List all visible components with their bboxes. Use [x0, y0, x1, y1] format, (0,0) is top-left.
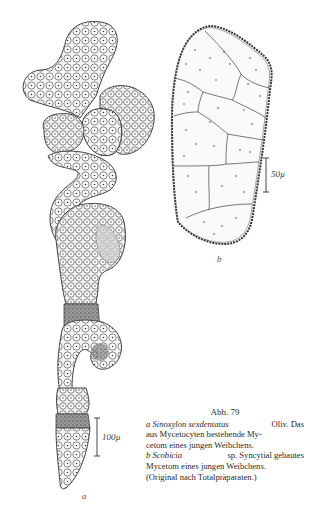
caption-line-4: b Scobicia sp. Syncytial gebautes: [146, 450, 304, 461]
caption-line-5: Mycetom eines jungen Weibchens.: [146, 461, 304, 472]
scale-label-50-micron: 50µ: [271, 169, 285, 179]
figure-caption: Abb. 79 a Sinoxylon sexdentatus Oliv. Da…: [146, 407, 304, 482]
caption-line-1-rest: Oliv. Das: [272, 419, 304, 430]
scale-bar-50-micron: [263, 158, 269, 192]
panel-a-mycetome-drawing: [23, 21, 154, 488]
caption-title: Abb. 79: [146, 407, 304, 418]
caption-species-b: Scobicia: [152, 450, 182, 460]
scale-label-100-micron: 100µ: [102, 432, 121, 442]
caption-species-a: Sinoxylon sexdentatus: [152, 419, 228, 429]
caption-line-1: a Sinoxylon sexdentatus Oliv. Das: [146, 419, 304, 430]
panel-label-a: a: [82, 491, 87, 501]
caption-line-3: cetom eines jungen Weibchens.: [146, 440, 304, 451]
panel-label-b: b: [217, 254, 222, 264]
caption-line-2: aus Mycetocyten bestehende My-: [146, 429, 304, 440]
panel-b-mycetome-drawing: [171, 26, 271, 244]
caption-line-4-rest: sp. Syncytial gebautes: [227, 450, 304, 461]
caption-panel-a-label: a: [146, 419, 150, 429]
scale-bar-100-micron: [94, 418, 100, 456]
caption-line-6: (Original nach Totalpräparaten.): [146, 472, 304, 483]
caption-panel-b-label: b: [146, 450, 150, 460]
